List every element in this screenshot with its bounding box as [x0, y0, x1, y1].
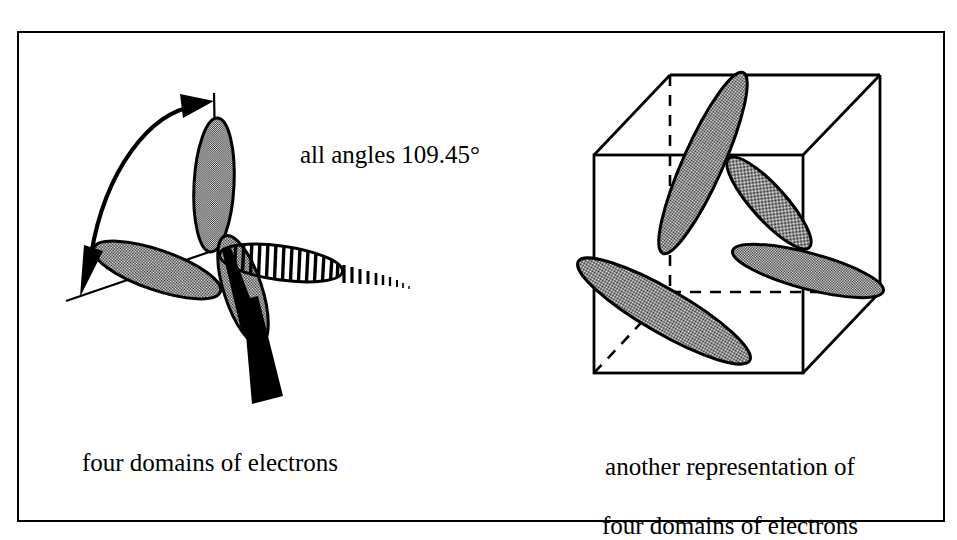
figure-root: all angles 109.45° four domains of elect…: [0, 0, 957, 540]
angle-annotation-label: all angles 109.45°: [300, 140, 560, 170]
left-diagram-caption: four domains of electrons: [30, 448, 390, 478]
right-diagram-caption-line1: another representation of: [530, 452, 930, 482]
right-diagram-caption: another representation of four domains o…: [530, 422, 930, 540]
right-diagram-caption-line2: four domains of electrons: [530, 511, 930, 540]
